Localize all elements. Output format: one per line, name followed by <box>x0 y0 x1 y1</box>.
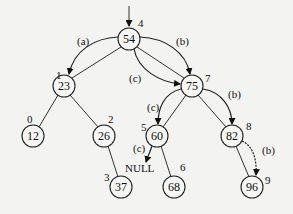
node-68: 68 <box>163 176 185 198</box>
node-96: 96 <box>241 176 263 198</box>
bst-diagram: (a) (b) (c) (b) (c) (c) (b) NULL 54 23 7… <box>0 0 293 214</box>
label-b-mid: (b) <box>228 88 241 101</box>
index-label-75: 7 <box>205 72 211 84</box>
label-c-bottom: (c) <box>133 142 146 155</box>
edge-23-12 <box>39 95 58 127</box>
index-label-82: 8 <box>246 120 252 132</box>
node-54: 54 <box>118 28 140 50</box>
arc-b-82-96 <box>242 141 256 175</box>
node-82: 82 <box>221 125 243 147</box>
node-37: 37 <box>110 176 132 198</box>
edge-54-23 <box>72 47 121 78</box>
label-c-top: (c) <box>129 72 142 85</box>
index-label-23: 1 <box>56 69 62 81</box>
label-c-mid: (c) <box>147 101 160 114</box>
index-label-60: 5 <box>141 121 147 133</box>
edge-23-26 <box>70 95 98 127</box>
node-60: 60 <box>146 125 168 147</box>
arc-c-60-null <box>146 146 152 162</box>
edge-82-96 <box>236 146 249 177</box>
svg-text:54: 54 <box>123 32 135 46</box>
edge-26-37 <box>108 146 118 177</box>
index-label-68: 6 <box>180 161 186 173</box>
svg-text:26: 26 <box>98 129 110 143</box>
label-a: (a) <box>77 35 90 48</box>
index-label-37: 3 <box>104 171 110 183</box>
tree-edges <box>39 47 249 177</box>
index-label-96: 9 <box>265 174 271 186</box>
svg-text:75: 75 <box>186 79 198 93</box>
label-b-top: (b) <box>176 35 189 48</box>
null-label: NULL <box>125 162 155 174</box>
svg-text:60: 60 <box>151 129 163 143</box>
node-75: 75 <box>181 75 203 97</box>
index-label-54: 4 <box>138 17 144 29</box>
edge-60-68 <box>161 146 171 177</box>
svg-text:68: 68 <box>168 180 180 194</box>
svg-text:82: 82 <box>226 129 238 143</box>
svg-text:96: 96 <box>246 180 258 194</box>
svg-text:12: 12 <box>27 129 39 143</box>
svg-text:37: 37 <box>115 180 127 194</box>
index-label-12: 0 <box>27 113 33 125</box>
node-12: 12 <box>22 125 44 147</box>
index-label-26: 2 <box>108 113 114 125</box>
label-b-bottom: (b) <box>262 144 275 157</box>
search-arcs <box>69 37 256 175</box>
svg-text:23: 23 <box>58 79 70 93</box>
edge-75-60 <box>163 95 186 127</box>
edge-75-82 <box>198 95 226 127</box>
node-26: 26 <box>93 125 115 147</box>
